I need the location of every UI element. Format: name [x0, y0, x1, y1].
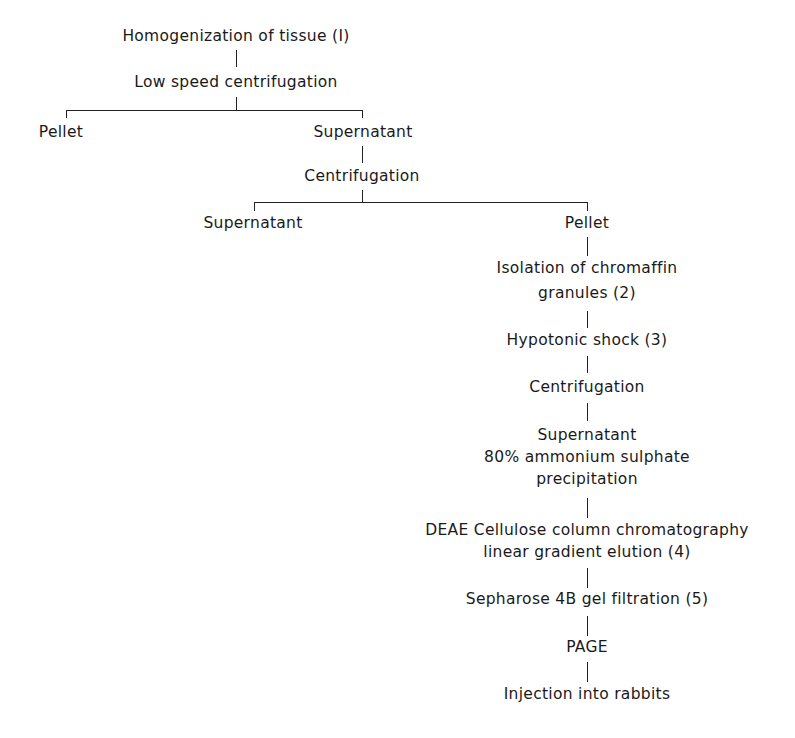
node-precipitation: precipitation [536, 469, 638, 490]
node-supernatant-1: Supernatant [313, 122, 412, 143]
connector [236, 50, 237, 67]
node-homogenization: Homogenization of tissue (I) [122, 26, 349, 47]
connector [236, 97, 237, 110]
node-hypotonic-shock: Hypotonic shock (3) [507, 330, 668, 351]
connector [587, 498, 588, 518]
connector [362, 110, 363, 118]
node-isolation-granules: granules (2) [538, 283, 636, 304]
connector [587, 202, 588, 211]
connector [587, 616, 588, 636]
connector [587, 568, 588, 588]
node-pellet-1: Pellet [39, 122, 83, 143]
node-page: PAGE [566, 637, 608, 658]
node-linear-gradient: linear gradient elution (4) [483, 542, 690, 563]
connector [362, 146, 363, 163]
connector [587, 662, 588, 682]
node-sepharose-filtration: Sepharose 4B gel filtration (5) [466, 589, 709, 610]
connector [66, 110, 67, 118]
branch-connector [254, 202, 588, 203]
node-low-speed-centrifugation: Low speed centrifugation [134, 72, 337, 93]
connector [254, 202, 255, 211]
connector [587, 237, 588, 256]
connector [362, 190, 363, 202]
connector [587, 311, 588, 328]
node-pellet-2: Pellet [565, 213, 609, 234]
node-supernatant-3: Supernatant [537, 425, 636, 446]
node-ammonium-sulphate: 80% ammonium sulphate [484, 447, 690, 468]
node-isolation-chromaffin: Isolation of chromaffin [497, 258, 678, 279]
node-deae-chromatography: DEAE Cellulose column chromatography [425, 520, 749, 541]
node-injection-rabbits: Injection into rabbits [504, 684, 671, 705]
connector [587, 356, 588, 373]
connector [587, 403, 588, 421]
node-supernatant-2: Supernatant [203, 213, 302, 234]
branch-connector [66, 110, 363, 111]
node-centrifugation-1: Centrifugation [304, 166, 419, 187]
node-centrifugation-2: Centrifugation [529, 377, 644, 398]
